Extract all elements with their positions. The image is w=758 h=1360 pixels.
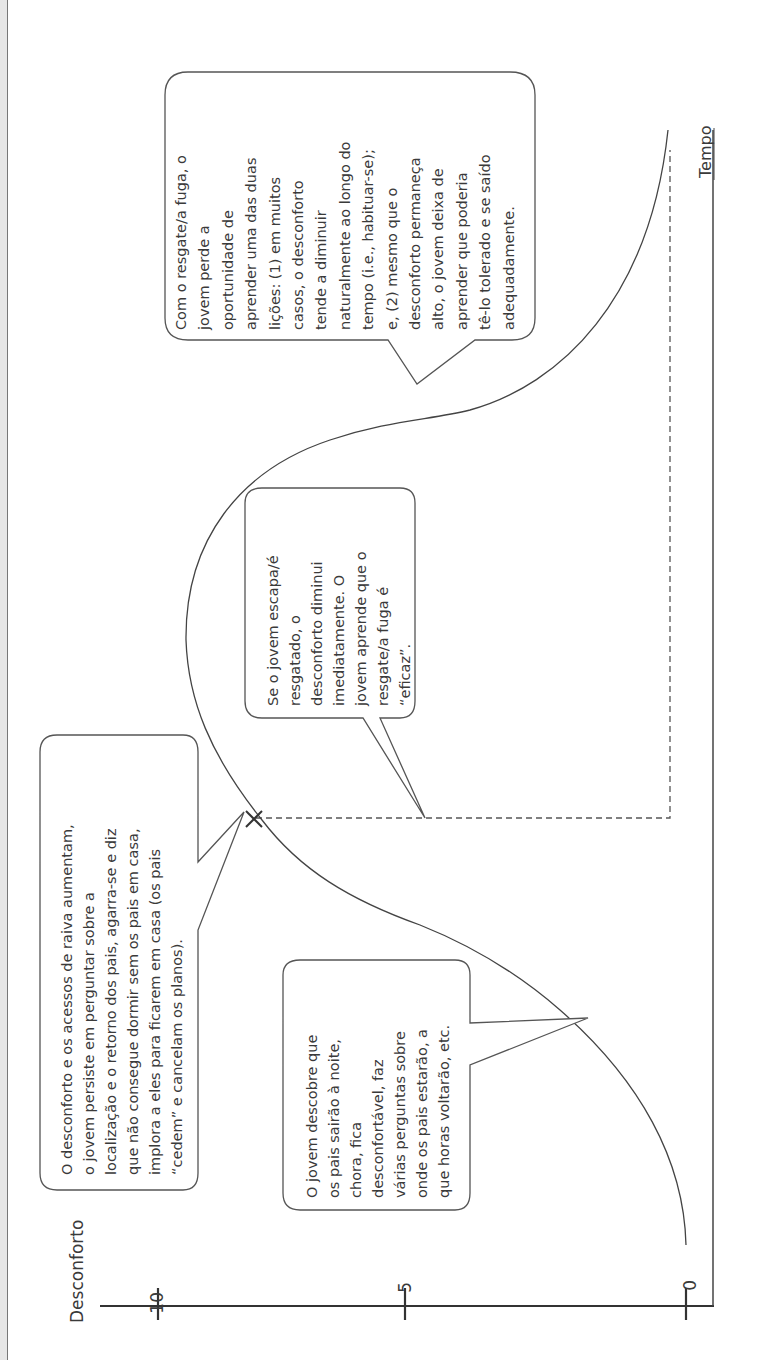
annotation-perde-line-8: naturalmente ao longo do [337, 141, 353, 330]
annotation-escapa-line-7: “eficaz”. [397, 644, 413, 706]
annotation-descobre-line-7: que horas voltarão, etc. [436, 1025, 452, 1198]
annotation-perde-line-10: e, (2) mesmo que o [384, 188, 400, 330]
annotation-perde: Com o resgate/a fuga, o jovem perde a op… [165, 72, 535, 384]
annotation-perde-line-2: jovem perde a [196, 225, 212, 331]
annotation-perde-line-9: tempo (i.e., habituar-se); [360, 149, 376, 330]
annotation-perde-line-3: oportunidade de [220, 210, 236, 330]
annotation-descobre-line-3: chora, fica [348, 1122, 364, 1198]
annotation-escapa: Se o jovem escapa/é resgatado, o desconf… [245, 488, 425, 818]
annotation-perde-line-6: casos, o desconforto [290, 180, 306, 330]
annotation-perde-line-11: desconforto permaneça [407, 157, 423, 330]
annotation-perde-line-14: tê-lo tolerado e se saído [477, 154, 493, 330]
annotation-descobre-line-1: O jovem descobre que [304, 1035, 320, 1198]
annotation-perde-line-15: adequadamente. [501, 206, 517, 330]
annotation-aumentam-line-1: O desconforto e os acessos de raiva aume… [59, 824, 75, 1175]
annotation-escapa-line-2: resgatado, o [287, 615, 303, 706]
discomfort-chart: Desconforto 10 5 0 Tempo O jovem descobr… [0, 0, 758, 1360]
annotation-perde-line-4: aprender uma das duas [243, 158, 259, 330]
annotation-aumentam-line-3: localização e o retorno dos pais, agarra… [103, 828, 119, 1175]
annotation-aumentam-line-5: implora a eles para ficarem em casa (os … [147, 849, 163, 1175]
annotation-descobre: O jovem descobre que os pais sairão à no… [283, 960, 588, 1210]
annotation-escapa-line-6: resgate/a fuga é [375, 587, 391, 706]
tick-label-0: 0 [680, 1280, 700, 1291]
annotation-perde-line-5: lições: (1) em muitos [267, 177, 283, 330]
annotation-aumentam-line-6: “cedem” e cancelam os planos). [169, 939, 185, 1175]
annotation-descobre-line-6: onde os pais estarão, a [414, 1029, 430, 1198]
annotation-descobre-line-2: os pais sairão à noite, [326, 1039, 342, 1198]
annotation-descobre-line-4: desconfortável, faz [370, 1059, 386, 1198]
annotation-aumentam-line-4: que não consegue dormir sem os pais em c… [125, 828, 141, 1175]
page-edge [0, 0, 8, 1360]
annotation-perde-line-1: Com o resgate/a fuga, o [173, 155, 189, 330]
tick-label-5: 5 [395, 1282, 415, 1293]
annotation-perde-line-12: alto, o jovem deixa de [430, 168, 446, 330]
x-axis-title: Tempo [696, 126, 715, 179]
y-axis-title: Desconforto [67, 1220, 87, 1323]
annotation-escapa-line-5: jovem aprende que o [353, 551, 369, 707]
tick-label-10: 10 [147, 1292, 167, 1314]
rescue-marker-icon [246, 811, 262, 827]
annotation-escapa-line-4: imediatamente. O [331, 575, 347, 706]
annotation-descobre-line-5: várias perguntas sobre [392, 1031, 408, 1198]
annotation-perde-line-13: aprender que poderia [454, 172, 470, 330]
chart-figure: Desconforto 10 5 0 Tempo O jovem descobr… [0, 0, 758, 1360]
annotation-escapa-line-1: Se o jovem escapa/é [265, 555, 281, 706]
annotation-escapa-line-3: desconforto diminui [309, 561, 325, 706]
annotation-aumentam: O desconforto e os acessos de raiva aume… [40, 735, 244, 1190]
annotation-perde-line-7: tende a diminuir [313, 210, 329, 330]
annotation-aumentam-line-2: o jovem persiste em perguntar sobre a [81, 892, 97, 1175]
